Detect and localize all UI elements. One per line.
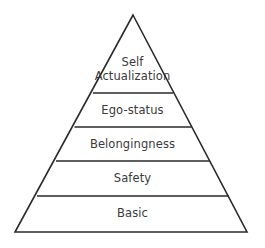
- pyramid-outline-svg: [0, 0, 265, 248]
- pyramid-diagram: Self Actualization Ego-status Belongingn…: [0, 0, 265, 248]
- pyramid-outline-shape: [15, 15, 247, 232]
